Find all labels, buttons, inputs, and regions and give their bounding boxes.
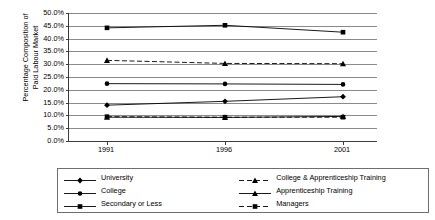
legend-key-icon xyxy=(238,172,272,183)
legend-key-icon xyxy=(63,172,97,183)
y-axis-tick-label: 40.0% xyxy=(28,35,64,43)
y-axis-tick-mark xyxy=(66,39,69,40)
legend-item[interactable]: College & Apprenticeship Training xyxy=(238,171,428,184)
y-axis-tick-label: 25.0% xyxy=(28,73,64,81)
series-marker xyxy=(223,23,228,28)
legend-item[interactable]: University xyxy=(63,171,238,184)
series-marker xyxy=(341,115,346,120)
legend-label: University xyxy=(101,173,133,182)
series-marker xyxy=(340,94,346,100)
plot-area xyxy=(68,13,377,142)
series-marker xyxy=(105,114,110,119)
y-axis-tick-labels: 0.0%5.0%10.0%15.0%20.0%25.0%30.0%35.0%40… xyxy=(28,13,64,141)
series-marker xyxy=(223,82,228,87)
y-axis-tick-label: 10.0% xyxy=(28,111,64,119)
line-chart: Percentage Composition of Paid Labour Ma… xyxy=(0,0,435,220)
series-layer xyxy=(69,13,377,141)
legend-key-icon xyxy=(238,198,272,209)
legend-label: Apprenticeship Training xyxy=(276,186,352,195)
legend-key-icon xyxy=(238,185,272,196)
legend-item[interactable]: Managers xyxy=(238,197,428,210)
y-axis-tick-label: 30.0% xyxy=(28,60,64,68)
y-axis-tick-mark xyxy=(66,141,69,142)
chart-series xyxy=(105,23,346,35)
chart-series xyxy=(104,94,346,108)
series-marker xyxy=(104,102,110,108)
series-marker xyxy=(105,26,110,31)
series-marker xyxy=(222,98,228,104)
chart-series xyxy=(105,81,346,86)
series-marker xyxy=(341,30,346,35)
y-axis-tick-label: 45.0% xyxy=(28,22,64,30)
y-axis-tick-mark xyxy=(66,103,69,104)
y-axis-tick-label: 35.0% xyxy=(28,47,64,55)
series-marker xyxy=(223,115,228,120)
y-axis-tick-label: 50.0% xyxy=(28,9,64,17)
legend-key-icon xyxy=(63,198,97,209)
y-axis-tick-label: 20.0% xyxy=(28,86,64,94)
legend-label: Secondary or Less xyxy=(101,199,162,208)
legend-label: College xyxy=(101,186,126,195)
y-axis-tick-mark xyxy=(66,13,69,14)
y-axis-tick-mark xyxy=(66,51,69,52)
y-axis-tick-label: 0.0% xyxy=(28,137,64,145)
legend-item[interactable]: Secondary or Less xyxy=(63,197,238,210)
legend-label: Managers xyxy=(276,199,308,208)
legend-item[interactable]: Apprenticeship Training xyxy=(238,184,428,197)
series-marker xyxy=(105,81,110,86)
y-axis-tick-mark xyxy=(66,26,69,27)
y-axis-tick-label: 5.0% xyxy=(28,124,64,132)
legend-label: College & Apprenticeship Training xyxy=(276,173,386,182)
x-axis-tick-label: 1991 xyxy=(76,145,136,154)
series-marker xyxy=(341,82,346,87)
legend-item[interactable]: College xyxy=(63,184,238,197)
x-axis-tick-labels: 199119962001 xyxy=(68,145,376,157)
legend-grid: UniversityCollege & Apprenticeship Train… xyxy=(58,169,428,212)
y-axis-tick-mark xyxy=(66,128,69,129)
y-axis-tick-mark xyxy=(66,115,69,116)
chart-series xyxy=(104,57,346,66)
y-axis-tick-label: 15.0% xyxy=(28,99,64,107)
x-axis-tick-label: 1996 xyxy=(194,145,254,154)
y-axis-tick-mark xyxy=(66,64,69,65)
y-axis-tick-mark xyxy=(66,90,69,91)
x-axis-tick-label: 2001 xyxy=(312,145,372,154)
chart-legend: UniversityCollege & Apprenticeship Train… xyxy=(57,168,429,213)
y-axis-tick-mark xyxy=(66,77,69,78)
legend-key-icon xyxy=(63,185,97,196)
